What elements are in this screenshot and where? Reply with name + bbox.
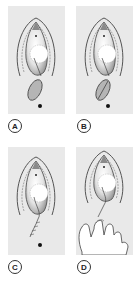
panel-c — [8, 147, 65, 255]
gloved-hand — [79, 220, 128, 255]
label-a: A — [8, 119, 22, 133]
label-d: D — [77, 260, 91, 274]
label-c: C — [8, 260, 22, 274]
anal-marker — [106, 104, 110, 108]
anal-marker — [38, 243, 42, 247]
anatomy-illustration-a — [8, 6, 65, 114]
label-b: B — [77, 119, 91, 133]
panel-d — [76, 147, 133, 255]
anal-marker — [38, 104, 42, 108]
panel-a — [8, 6, 65, 114]
anatomy-illustration-b — [76, 6, 133, 114]
panel-b — [76, 6, 133, 114]
anatomy-illustration-d — [76, 147, 133, 255]
anatomy-illustration-c — [8, 147, 65, 255]
